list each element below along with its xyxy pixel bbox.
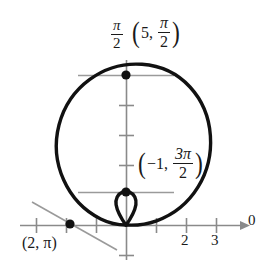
point-label-inner-theta-numerator: 3π — [173, 146, 193, 164]
point-label-inner-separator: , — [164, 156, 168, 172]
vertical-axis-label: π 2 — [110, 18, 124, 51]
paren-open-icon: ( — [138, 151, 146, 176]
point-label-top-separator: , — [149, 25, 153, 41]
point-label-inner-r: −1 — [147, 156, 164, 172]
paren-open-icon: ( — [132, 20, 140, 45]
point-label-inner-theta-denominator: 2 — [177, 164, 189, 181]
point-dot-top — [121, 70, 130, 79]
x-tick-label-3: 3 — [211, 233, 219, 248]
point-dot-left — [65, 219, 74, 228]
vertical-axis-label-numerator: π — [111, 18, 123, 35]
point-label-inner: ( −1, 3π 2 ) — [137, 146, 204, 181]
point-label-top-r: 5 — [141, 25, 149, 41]
paren-close-icon: ) — [172, 20, 180, 45]
vertical-axis-label-denominator: 2 — [111, 35, 123, 51]
x-tick-label-2: 2 — [181, 233, 189, 248]
point-label-top-theta-denominator: 2 — [158, 33, 170, 50]
point-label-top: ( 5, π 2 ) — [131, 15, 181, 50]
paren-close-icon: ) — [195, 151, 203, 176]
point-dot-inner — [121, 187, 130, 196]
polar-axis-label: 0 — [248, 213, 256, 228]
point-label-left: (2, π) — [22, 235, 57, 251]
point-label-top-theta-numerator: π — [158, 15, 170, 33]
